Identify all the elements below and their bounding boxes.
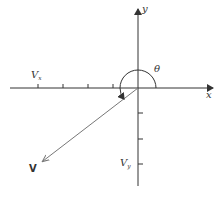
x-axis-label: x xyxy=(206,90,212,100)
vy-label: Vy xyxy=(120,158,131,168)
x-ticks xyxy=(38,84,113,88)
vector-v xyxy=(43,88,138,161)
y-axis-label: y xyxy=(142,4,148,14)
vy-sub: y xyxy=(127,162,130,169)
theta-label: θ xyxy=(154,64,160,74)
vx-sub: x xyxy=(38,74,41,81)
y-ticks xyxy=(138,113,143,164)
vx-label: Vx xyxy=(31,70,42,80)
vector-label: V xyxy=(29,164,37,174)
